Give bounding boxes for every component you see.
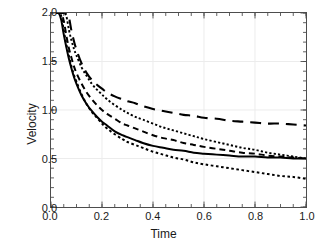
x-tick-label: 0.4 — [145, 210, 160, 222]
x-axis-title: Time — [0, 227, 327, 241]
y-tick-label: 0.0 — [17, 202, 57, 214]
curve-long-dash — [56, 13, 306, 126]
curve-fine-dot — [56, 13, 306, 159]
curve-coarse-dot — [56, 13, 306, 179]
y-axis-title: Velocity — [25, 64, 39, 184]
x-tick-label: 0.2 — [94, 210, 109, 222]
x-tick-label: 0.6 — [197, 210, 212, 222]
y-tick-label: 2.0 — [17, 6, 57, 18]
velocity-time-chart: 0.00.20.40.60.81.0 0.00.51.01.52.0 Time … — [0, 0, 327, 248]
x-tick-label: 0.8 — [248, 210, 263, 222]
plot-area — [50, 12, 307, 208]
data-curves — [51, 13, 306, 207]
x-tick-label: 1.0 — [299, 210, 314, 222]
